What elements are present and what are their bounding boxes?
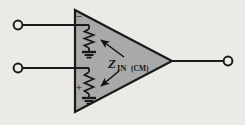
noninverting-input-terminal[interactable] [14, 64, 23, 73]
noninverting-polarity-sign: + [76, 81, 82, 93]
output-group [172, 57, 232, 66]
circuit-diagram-figure: − + [0, 0, 245, 125]
inverting-input-terminal[interactable] [14, 21, 23, 30]
schematic-canvas: − + [0, 0, 245, 125]
z-in-cm-symbol: Z [107, 56, 116, 71]
inverting-polarity-sign: − [76, 10, 82, 22]
z-in-cm-qualifier: (CM) [131, 64, 149, 73]
z-in-cm-subscript: IN [117, 63, 127, 73]
output-terminal[interactable] [224, 57, 233, 66]
